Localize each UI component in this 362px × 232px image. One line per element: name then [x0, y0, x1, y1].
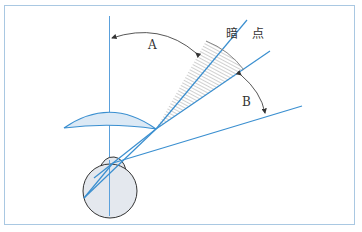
blind-spot-diagram — [0, 0, 362, 232]
blind-spot-sector — [156, 41, 244, 129]
label-blind-spot: 暗 点 — [226, 28, 265, 40]
label-angle-b: B — [242, 96, 251, 108]
label-angle-a: A — [148, 39, 157, 51]
